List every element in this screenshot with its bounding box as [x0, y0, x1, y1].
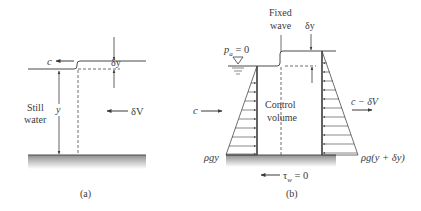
- wave-speed-label-a: c: [47, 55, 52, 67]
- wave-height-label-b: δy: [305, 20, 315, 31]
- right-pressure-label: ρg(y + δy): [360, 152, 405, 164]
- velocity-label-a: δV: [131, 106, 144, 117]
- wall-shear-label: τw = 0: [283, 170, 308, 184]
- wave-height-label-a: δy: [111, 57, 121, 68]
- fixed-wave-label-line2: wave: [270, 20, 292, 31]
- caption-b: (b): [286, 188, 298, 200]
- still-water-label-line1: Still: [27, 102, 44, 113]
- water-level-triangle-icon: [233, 57, 243, 64]
- fixed-wave-label-line1: Fixed: [269, 7, 292, 18]
- outflow-label: c − δV: [351, 96, 380, 107]
- inflow-label: c: [193, 104, 198, 116]
- right-pressure-arrows: [323, 63, 357, 153]
- control-volume-label-line2: volume: [267, 112, 298, 123]
- caption-a: (a): [80, 188, 91, 200]
- panel-b: Fixed wave δy pa = 0: [193, 7, 405, 200]
- left-pressure-arrows: [226, 83, 256, 154]
- depth-label-a: y: [55, 104, 61, 115]
- left-pressure-distribution: [226, 66, 257, 155]
- free-surface-a: [28, 61, 146, 69]
- wave-momentum-diagram: c δy y Still water δV (a) Fixed wave: [0, 0, 421, 211]
- still-water-label-line2: water: [24, 114, 47, 125]
- control-volume-label-line1: Control: [265, 99, 296, 110]
- left-pressure-label: ρgy: [203, 152, 219, 163]
- panel-a: c δy y Still water δV (a): [24, 37, 146, 200]
- ground-b: [226, 155, 336, 167]
- atmospheric-pressure-label: pa = 0: [223, 44, 249, 58]
- ground-a: [28, 155, 146, 169]
